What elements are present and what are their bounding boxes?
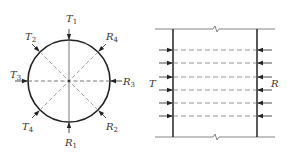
label-t2: T2 (25, 31, 36, 44)
label-t4: T4 (22, 121, 34, 134)
receiver-arrows (258, 50, 272, 116)
transmitter-arrows (159, 50, 172, 116)
arrow-t4 (32, 111, 39, 118)
label-r3: R3 (122, 76, 135, 89)
center-point (68, 80, 70, 82)
label-r1: R1 (64, 137, 77, 150)
label-t3: T3 (10, 69, 21, 82)
label-t: T (149, 78, 157, 89)
label-r2: R2 (105, 121, 118, 134)
circle-diagram: T1 T2 T3 T4 R1 R2 R3 R4 (10, 13, 135, 150)
label-r: R (270, 78, 279, 89)
arrow-r2 (99, 111, 106, 118)
figure: T1 T2 T3 T4 R1 R2 R3 R4 (0, 0, 287, 157)
arrow-r4 (99, 44, 106, 51)
label-t1: T1 (66, 13, 77, 26)
arrow-t2 (32, 44, 39, 51)
slab-diagram: T R (149, 26, 279, 140)
label-r4: R4 (105, 31, 119, 44)
parallel-rays (173, 50, 257, 116)
